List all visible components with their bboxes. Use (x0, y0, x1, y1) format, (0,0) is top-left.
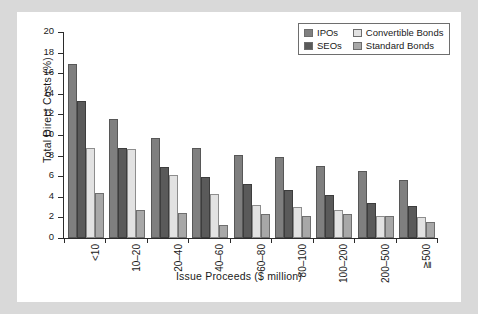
bar (219, 225, 228, 238)
x-axis-tick (188, 238, 189, 243)
y-axis-tick: 10 (58, 135, 63, 136)
x-axis-category-label: 100–200 (338, 244, 349, 283)
bar (275, 157, 284, 238)
bar (343, 214, 352, 238)
x-axis-category-label: ≧500 (421, 244, 432, 269)
x-axis-category-label: 60–80 (256, 244, 267, 272)
x-axis-category-label: 10–20 (131, 244, 142, 272)
bar (261, 214, 270, 238)
legend-swatch-icon-ipos (304, 29, 313, 37)
bar (367, 203, 376, 238)
y-axis-tick-label: 14 (43, 87, 54, 98)
bar (210, 194, 219, 238)
chart-legend: IPOs Convertible Bonds SEOs Standard Bon… (298, 23, 450, 55)
x-axis-line (63, 238, 437, 239)
legend-swatch-icon-convertible-bonds (353, 29, 362, 37)
y-axis-tick-label: 0 (49, 231, 54, 242)
chart-figure: Total Direct Costs (%) Issue Proceeds ($… (17, 12, 461, 302)
y-axis-tick-label: 18 (43, 46, 54, 57)
legend-label-seos: SEOs (317, 40, 342, 51)
bar (408, 206, 417, 238)
x-axis-category-label: 20–40 (173, 244, 184, 272)
plot-area: 02468101214161820 <1010–2020–4040–6060–8… (63, 32, 436, 238)
y-axis-tick-label: 10 (43, 128, 54, 139)
y-axis-tick-label: 16 (43, 66, 54, 77)
bar (192, 148, 201, 238)
bar (252, 205, 261, 238)
bar (325, 195, 334, 238)
x-axis-title: Issue Proceeds ($ million) (17, 270, 461, 282)
bar (426, 222, 435, 238)
x-axis-category-label: 40–60 (214, 244, 225, 272)
bar (358, 171, 367, 238)
bar (136, 210, 145, 238)
bar (68, 64, 77, 238)
x-axis-tick (354, 238, 355, 243)
y-axis-tick: 2 (58, 217, 63, 218)
bar-group (151, 32, 187, 238)
legend-item-ipos: IPOs (304, 27, 342, 38)
bar-group (358, 32, 394, 238)
bar (169, 175, 178, 238)
bar-group (316, 32, 352, 238)
bar (334, 210, 343, 238)
bar (118, 148, 127, 238)
legend-label-standard-bonds: Standard Bonds (366, 40, 434, 51)
bar (77, 101, 86, 238)
legend-label-convertible-bonds: Convertible Bonds (366, 27, 444, 38)
x-axis-tick (105, 238, 106, 243)
bar-group (234, 32, 270, 238)
bar (316, 166, 325, 238)
y-axis-tick-label: 12 (43, 107, 54, 118)
y-axis-tick: 0 (58, 238, 63, 239)
legend-swatch-icon-seos (304, 42, 313, 50)
bar (109, 119, 118, 238)
bar-group (275, 32, 311, 238)
bar-group (399, 32, 435, 238)
bar (234, 155, 243, 238)
legend-label-ipos: IPOs (317, 27, 338, 38)
legend-item-seos: SEOs (304, 40, 342, 51)
bar-group (109, 32, 145, 238)
bar (385, 216, 394, 238)
bar (284, 190, 293, 238)
legend-item-convertible-bonds: Convertible Bonds (353, 27, 444, 38)
y-axis-tick: 20 (58, 32, 63, 33)
x-axis-tick (313, 238, 314, 243)
y-axis-tick: 12 (58, 114, 63, 115)
x-axis-tick (396, 238, 397, 243)
bar (417, 217, 426, 238)
bar (178, 213, 187, 238)
x-axis-tick (64, 238, 65, 243)
y-axis-tick-label: 8 (49, 149, 54, 160)
y-axis-tick-label: 20 (43, 25, 54, 36)
x-axis-category-label: 80–100 (297, 244, 308, 277)
y-axis-tick: 6 (58, 176, 63, 177)
y-axis-tick: 14 (58, 94, 63, 95)
bar (376, 216, 385, 238)
y-axis-tick: 4 (58, 197, 63, 198)
x-axis-category-label: <10 (90, 244, 101, 261)
bar (302, 216, 311, 238)
bar (151, 138, 160, 238)
legend-item-standard-bonds: Standard Bonds (353, 40, 444, 51)
bar (293, 207, 302, 238)
y-axis-line (63, 32, 64, 239)
y-axis-tick: 8 (58, 156, 63, 157)
y-axis-tick: 16 (58, 73, 63, 74)
bar (201, 177, 210, 238)
bar-group (192, 32, 228, 238)
bar (160, 167, 169, 238)
y-axis-tick-label: 2 (49, 210, 54, 221)
bar (95, 193, 104, 238)
x-axis-tick (271, 238, 272, 243)
y-axis-tick-label: 6 (49, 169, 54, 180)
y-axis-tick-label: 4 (49, 190, 54, 201)
x-axis-tick (437, 238, 438, 243)
y-axis-tick: 18 (58, 53, 63, 54)
legend-swatch-icon-standard-bonds (353, 42, 362, 50)
x-axis-tick (230, 238, 231, 243)
bar (127, 149, 136, 238)
x-axis-category-label: 200–500 (380, 244, 391, 283)
bar (243, 184, 252, 238)
